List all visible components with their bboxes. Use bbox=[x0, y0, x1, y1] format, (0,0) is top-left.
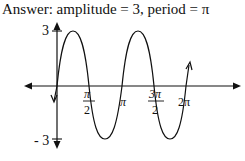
svg-text:2: 2 bbox=[84, 103, 90, 117]
y-axis-up-arrow-icon bbox=[54, 22, 61, 30]
x-axis-right-arrow-icon bbox=[233, 83, 241, 90]
sine-graph: 3 - 3 π 2 π 3π 2 2π bbox=[0, 0, 245, 161]
y-tick-label-3: 3 bbox=[42, 23, 49, 38]
x-axis-left-arrow-icon bbox=[24, 83, 32, 90]
y-tick-label-neg3: - 3 bbox=[34, 133, 49, 148]
sine-curve bbox=[57, 31, 189, 139]
y-axis-down-arrow-icon bbox=[54, 141, 61, 149]
